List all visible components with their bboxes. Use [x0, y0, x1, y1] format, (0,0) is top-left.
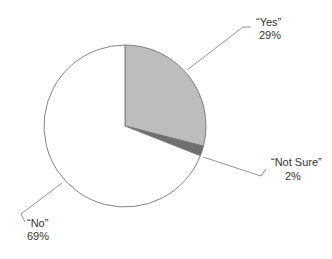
pie-slices — [44, 45, 206, 207]
label-not-sure-value: 2% — [285, 170, 301, 182]
leader-line-not-sure — [203, 157, 266, 176]
pie-chart: “Yes” 29% “Not Sure” 2% “No” 69% — [0, 0, 332, 259]
label-yes-value: 29% — [259, 29, 281, 41]
label-no-name: “No” — [27, 217, 49, 229]
label-no: “No” 69% — [27, 217, 49, 242]
label-yes: “Yes” 29% — [256, 16, 282, 41]
leader-line-yes — [187, 27, 251, 70]
label-no-value: 69% — [27, 230, 49, 242]
label-not-sure: “Not Sure” 2% — [271, 156, 322, 182]
label-not-sure-name: “Not Sure” — [271, 156, 322, 168]
label-yes-name: “Yes” — [256, 16, 282, 28]
